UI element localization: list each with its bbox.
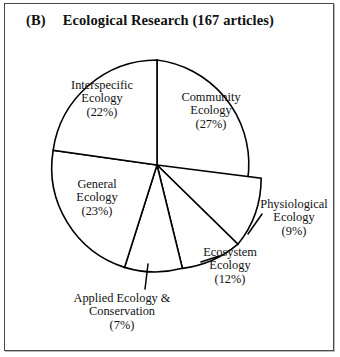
slice-label-community-ecology: Community Ecology (27%) — [168, 91, 254, 131]
slice-label-percent: (27%) — [168, 118, 254, 131]
slice-label-line2: Ecology — [168, 104, 254, 117]
slice-label-line2: Ecology — [185, 259, 275, 272]
slice-label-percent: (22%) — [56, 106, 148, 119]
slice-label-physiological-ecology: Physiological Ecology (9%) — [252, 198, 336, 238]
slice-label-line1: Ecosystem — [185, 246, 275, 259]
slice-label-percent: (9%) — [252, 225, 336, 238]
slice-label-line1: Community — [168, 91, 254, 104]
slice-label-line1: Physiological — [252, 198, 336, 211]
slice-label-line2: Ecology — [252, 211, 336, 224]
slice-label-percent: (12%) — [185, 273, 275, 286]
figure-panel-b: (B)Ecological Research (167 articles) In… — [0, 0, 340, 357]
slice-label-line2: Ecology — [56, 92, 148, 105]
slice-label-line2: Ecology — [55, 191, 139, 204]
slice-label-percent: (23%) — [55, 205, 139, 218]
slice-label-line1: Applied Ecology & — [48, 292, 196, 305]
slice-label-line2: Conservation — [48, 305, 196, 318]
slice-label-ecosystem-ecology: Ecosystem Ecology (12%) — [185, 246, 275, 286]
slice-label-line1: General — [55, 178, 139, 191]
slice-label-percent: (7%) — [48, 319, 196, 332]
slice-label-general-ecology: General Ecology (23%) — [55, 178, 139, 218]
slice-label-applied-ecology-conservation: Applied Ecology & Conservation (7%) — [48, 292, 196, 332]
slice-label-interspecific-ecology: Interspecific Ecology (22%) — [56, 79, 148, 119]
slice-label-line1: Interspecific — [56, 79, 148, 92]
